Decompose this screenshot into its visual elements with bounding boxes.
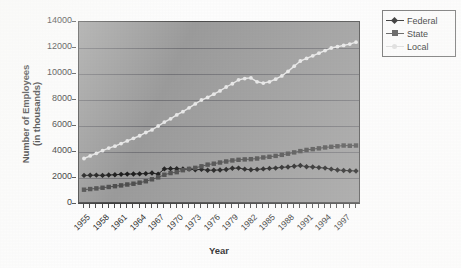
data-point bbox=[181, 110, 185, 114]
y-tick-label: 8000 bbox=[26, 93, 72, 103]
data-point bbox=[87, 173, 92, 178]
x-tick-label: 1976 bbox=[198, 212, 222, 236]
x-tick-mark bbox=[238, 204, 239, 208]
x-tick-label: 1985 bbox=[253, 212, 277, 236]
chart-figure: Number of Employees (in thousands) 02000… bbox=[0, 0, 461, 268]
x-tick-label: 1958 bbox=[87, 212, 111, 236]
x-tick-mark bbox=[262, 204, 263, 208]
data-point bbox=[329, 145, 333, 149]
data-point bbox=[317, 51, 321, 55]
data-point bbox=[230, 166, 235, 171]
data-point bbox=[261, 81, 265, 85]
data-point bbox=[162, 173, 166, 177]
x-tick-mark bbox=[293, 204, 294, 208]
data-point bbox=[138, 134, 142, 138]
y-tick-label: 0 bbox=[26, 197, 72, 207]
data-point bbox=[175, 170, 179, 174]
data-point bbox=[261, 166, 266, 171]
data-point bbox=[88, 187, 92, 191]
x-axis-title: Year bbox=[78, 245, 360, 256]
x-tick-mark bbox=[108, 204, 109, 208]
x-tick-mark bbox=[151, 204, 152, 208]
data-point bbox=[132, 136, 136, 140]
data-point bbox=[94, 172, 99, 177]
y-tick-label: 4000 bbox=[26, 145, 72, 155]
data-point bbox=[236, 165, 241, 170]
x-tick-mark bbox=[188, 204, 189, 208]
legend-item-local[interactable]: Local bbox=[385, 40, 452, 53]
legend-marker-square-icon bbox=[385, 28, 405, 39]
x-tick-mark bbox=[231, 204, 232, 208]
data-point bbox=[310, 164, 315, 169]
data-point bbox=[237, 78, 241, 82]
data-point bbox=[341, 143, 345, 147]
y-tick-label: 12000 bbox=[26, 41, 72, 51]
x-tick-mark bbox=[213, 204, 214, 208]
x-tick-mark bbox=[89, 204, 90, 208]
data-point bbox=[156, 124, 160, 128]
data-point bbox=[82, 157, 86, 161]
x-tick-mark bbox=[355, 204, 356, 208]
x-tick-mark bbox=[336, 204, 337, 208]
data-point bbox=[149, 170, 154, 175]
data-point bbox=[280, 74, 284, 78]
data-point bbox=[304, 164, 309, 169]
data-point bbox=[181, 168, 185, 172]
data-point bbox=[88, 154, 92, 158]
data-point bbox=[100, 173, 105, 178]
x-tick-mark bbox=[287, 204, 288, 208]
y-tick-mark bbox=[72, 73, 76, 74]
data-point bbox=[267, 155, 271, 159]
x-tick-label: 1970 bbox=[161, 212, 185, 236]
x-tick-mark bbox=[114, 204, 115, 208]
data-point bbox=[187, 106, 191, 110]
x-tick-mark bbox=[299, 204, 300, 208]
data-point bbox=[249, 157, 253, 161]
legend-label: Federal bbox=[405, 16, 438, 26]
legend-item-federal[interactable]: Federal bbox=[385, 14, 452, 27]
data-point bbox=[280, 153, 284, 157]
data-point bbox=[150, 128, 154, 132]
x-tick-mark bbox=[312, 204, 313, 208]
data-point bbox=[261, 155, 265, 159]
data-point bbox=[286, 70, 290, 74]
data-point bbox=[205, 162, 209, 166]
data-point bbox=[242, 166, 247, 171]
legend-item-state[interactable]: State bbox=[385, 27, 452, 40]
data-point bbox=[101, 149, 105, 153]
legend-label: Local bbox=[405, 42, 429, 52]
data-point bbox=[347, 168, 352, 173]
data-point bbox=[143, 171, 148, 176]
data-point bbox=[218, 160, 222, 164]
x-tick-label: 1973 bbox=[179, 212, 203, 236]
data-point bbox=[125, 139, 129, 143]
data-point bbox=[298, 163, 303, 168]
data-point bbox=[137, 171, 142, 176]
data-point bbox=[211, 168, 216, 173]
data-point bbox=[175, 113, 179, 117]
series-federal bbox=[81, 163, 358, 178]
x-tick-mark bbox=[120, 204, 121, 208]
data-point bbox=[106, 172, 111, 177]
data-point bbox=[354, 40, 358, 44]
data-point bbox=[230, 158, 234, 162]
data-point bbox=[230, 82, 234, 86]
y-tick-mark bbox=[72, 125, 76, 126]
data-point bbox=[168, 166, 173, 171]
data-point bbox=[329, 46, 333, 50]
data-point bbox=[199, 164, 203, 168]
data-point bbox=[273, 154, 277, 158]
x-tick-mark bbox=[157, 204, 158, 208]
x-tick-mark bbox=[306, 204, 307, 208]
data-point bbox=[286, 151, 290, 155]
data-point bbox=[156, 175, 160, 179]
series-line bbox=[84, 42, 356, 158]
data-point bbox=[205, 168, 210, 173]
data-point bbox=[291, 164, 296, 169]
data-point bbox=[322, 165, 327, 170]
data-point bbox=[212, 162, 216, 166]
data-point bbox=[348, 42, 352, 46]
data-point bbox=[112, 172, 117, 177]
x-tick-label: 1988 bbox=[272, 212, 296, 236]
data-point bbox=[317, 146, 321, 150]
